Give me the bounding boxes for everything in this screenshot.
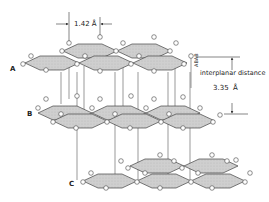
layer-label-c: C: [69, 180, 74, 188]
layer-b: [38, 106, 215, 128]
bond-length-value: 1.42 Å: [74, 20, 97, 28]
graphite-structure-figure: A B C 1.42 Å ABAB interplanar distance 3…: [0, 0, 269, 202]
layer-label-b: B: [27, 110, 32, 118]
lattice-drawing: [0, 0, 269, 202]
layer-c: [83, 159, 245, 188]
interplanar-label: interplanar distance: [200, 69, 265, 77]
layer-a: [25, 44, 187, 70]
layer-label-a: A: [10, 65, 15, 73]
interplanar-value: 3.35 Å: [213, 84, 238, 92]
stacking-label: ABAB: [193, 53, 199, 67]
